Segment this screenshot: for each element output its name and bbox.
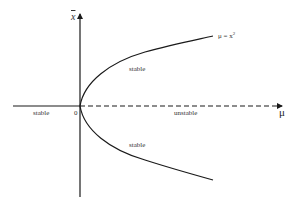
- x-axis-label: μ: [279, 107, 285, 118]
- origin-label: 0: [74, 110, 78, 117]
- right-axis-unstable-label: unstable: [174, 110, 197, 117]
- left-axis-stable-label: stable: [33, 110, 49, 117]
- curve-equation-label: μ = x2: [218, 31, 235, 40]
- equation-exponent: 2: [233, 31, 236, 36]
- bifurcation-diagram: [0, 0, 295, 207]
- lower-branch-label: stable: [129, 142, 145, 149]
- upper-branch-label: stable: [129, 66, 145, 73]
- upper-stable-branch: [80, 36, 213, 106]
- y-axis-label: x: [71, 12, 75, 22]
- lower-stable-branch: [80, 106, 213, 180]
- equation-text: μ = x: [218, 32, 233, 40]
